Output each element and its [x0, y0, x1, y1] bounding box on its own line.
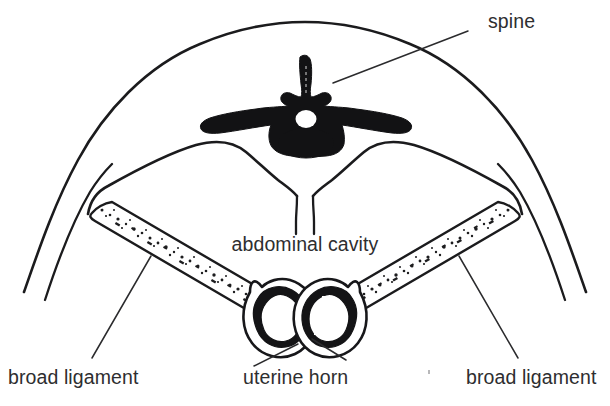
label-broad-ligament-right: broad ligament [466, 366, 597, 388]
anatomical-diagram: Transverse section of the abdomen showin… [0, 0, 610, 406]
label-uterine-horn: uterine horn [243, 366, 348, 388]
spinal-canal [296, 110, 317, 128]
label-broad-ligament-left: broad ligament [8, 366, 139, 388]
leader-broad-ligament-left [92, 256, 151, 358]
leader-broad-ligament-right [459, 256, 518, 358]
label-abdominal-cavity: abdominal cavity [232, 233, 379, 255]
right-broad-ligament-band [341, 202, 520, 313]
left-broad-ligament-band [90, 202, 269, 313]
scan-speck [428, 370, 430, 374]
label-spine: spine [488, 10, 535, 32]
figure-canvas: Transverse section of the abdomen showin… [0, 0, 610, 406]
right-uterine-horn [294, 279, 367, 357]
